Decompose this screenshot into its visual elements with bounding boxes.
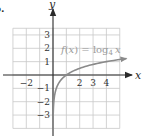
y-tick-label: 1 [44,57,50,67]
x-tick-label: 4 [104,78,110,88]
part-label: b. [0,3,4,14]
function-base: 4 [109,49,114,57]
y-tick-label: −2 [37,97,50,107]
x-tick-label: 3 [90,78,96,88]
x-tick-labels: −2234 [20,78,110,88]
function-arg: x [115,44,121,55]
log-curve [53,59,126,133]
y-axis-label: y [48,0,56,11]
function-eq: ) = log [74,44,109,55]
x-axis-label: x [135,69,142,82]
log-graph: b. x y −2234 321−1−2−3 f(x) = log4x [0,0,143,139]
y-tick-label: −3 [37,110,51,120]
x-tick-label: 2 [77,78,83,88]
y-tick-label: 2 [44,43,50,53]
function-label: f(x) = log4x [60,44,121,57]
x-tick-label: −2 [20,78,33,88]
y-tick-label: −1 [37,83,50,93]
y-tick-label: 3 [44,30,50,40]
